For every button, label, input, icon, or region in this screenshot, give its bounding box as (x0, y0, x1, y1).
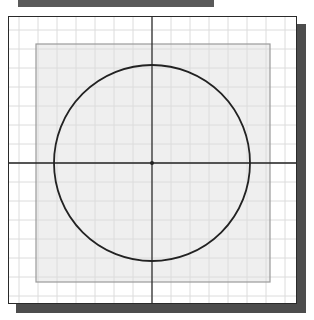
center-point (150, 161, 154, 165)
drawing-canvas (0, 0, 314, 320)
